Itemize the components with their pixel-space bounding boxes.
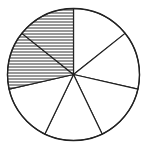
pie-slices [8,9,140,141]
pie-chart [0,0,145,146]
